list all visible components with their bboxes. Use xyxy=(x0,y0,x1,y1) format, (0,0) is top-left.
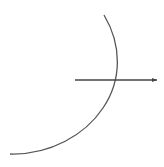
arc-curve xyxy=(10,15,117,154)
diagram-canvas xyxy=(0,0,164,167)
